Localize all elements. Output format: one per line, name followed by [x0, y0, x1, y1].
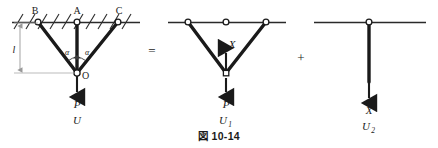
dimension-label-l: l [13, 44, 16, 55]
node-A-middle [223, 19, 229, 25]
node-C-middle [263, 19, 269, 25]
energy-label-U1-base: U [219, 114, 228, 126]
diagram-substructure-two: X U 2 [314, 19, 426, 135]
force-label-X-middle: X [228, 38, 237, 50]
energy-label-U: U [73, 114, 82, 126]
force-label-X-right: X [365, 104, 374, 116]
bar-BO [38, 22, 77, 73]
figure-svg: B A C O α α l P U = [0, 0, 438, 148]
node-A-right [366, 19, 372, 25]
operator-equals: = [148, 43, 155, 58]
bar-CO [77, 22, 118, 73]
diagram-substructure-one: X P U 1 [168, 19, 286, 129]
force-label-P-middle: P [222, 98, 230, 110]
figure-caption: 図 10-14 [0, 128, 438, 143]
node-B-middle [185, 19, 191, 25]
bar-BO-middle [188, 22, 226, 73]
node-label-O: O [82, 70, 89, 81]
node-O-middle [223, 70, 228, 75]
angle-label-left: α [65, 48, 70, 57]
diagram-full-structure: B A C O α α l P U [12, 5, 140, 126]
node-label-B: B [32, 5, 39, 16]
node-O [74, 70, 80, 76]
force-label-P: P [73, 98, 81, 110]
node-label-A: A [73, 5, 81, 16]
energy-label-U1: U 1 [219, 114, 232, 129]
node-A [74, 19, 80, 25]
node-label-C: C [116, 5, 123, 16]
figure-container: B A C O α α l P U = [0, 0, 438, 148]
node-B [35, 19, 41, 25]
node-C [115, 19, 121, 25]
operator-plus: + [297, 50, 304, 65]
